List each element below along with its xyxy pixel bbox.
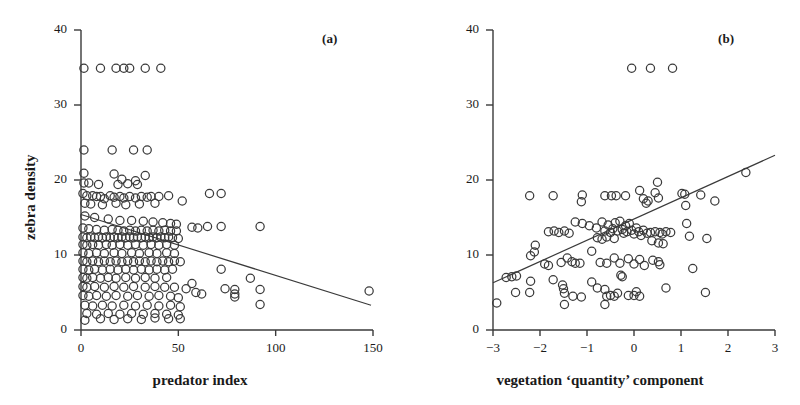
data-point: [166, 292, 174, 300]
data-point: [98, 266, 106, 274]
data-point: [178, 197, 186, 205]
data-point: [131, 274, 139, 282]
data-point: [616, 217, 624, 225]
data-point: [139, 241, 147, 249]
data-point: [151, 274, 159, 282]
data-point: [176, 303, 184, 311]
x-axis-title-a: predator index: [0, 372, 400, 389]
data-point: [126, 192, 134, 200]
data-point: [549, 192, 557, 200]
data-point: [163, 249, 171, 257]
data-point: [124, 241, 132, 249]
y-tick-label: 10: [31, 246, 67, 262]
y-tick-label: 20: [31, 171, 67, 187]
data-point: [89, 302, 97, 310]
data-point: [662, 284, 670, 292]
data-point: [682, 201, 690, 209]
data-point: [176, 258, 184, 266]
data-point: [192, 288, 200, 296]
data-point: [221, 285, 229, 293]
x-tick-label: −1: [562, 340, 612, 356]
data-point: [630, 260, 638, 268]
data-point: [124, 292, 132, 300]
x-tick-label: 3: [750, 340, 800, 356]
x-tick-label: 150: [348, 340, 398, 356]
data-point: [122, 273, 130, 281]
data-point: [85, 292, 93, 300]
panel-b: (b) vegetation ‘quantity’ component −3−2…: [400, 0, 800, 405]
y-tick-label: 40: [31, 21, 67, 37]
data-point: [100, 283, 108, 291]
data-point: [81, 301, 89, 309]
y-tick-label: 10: [443, 246, 479, 262]
data-point: [141, 64, 149, 72]
data-point: [139, 217, 147, 225]
data-point: [141, 283, 149, 291]
data-points: [493, 64, 750, 308]
data-point: [110, 315, 118, 323]
data-point: [135, 200, 143, 208]
data-point: [365, 287, 373, 295]
data-point: [91, 282, 99, 290]
data-point: [110, 170, 118, 178]
y-tick-label: 20: [443, 171, 479, 187]
data-point: [133, 291, 141, 299]
data-point: [141, 273, 149, 281]
data-point: [124, 180, 132, 188]
data-point: [87, 200, 95, 208]
data-point: [96, 64, 104, 72]
data-point: [640, 261, 648, 269]
y-tick-label: 40: [443, 21, 479, 37]
data-point: [85, 179, 93, 187]
data-point: [601, 300, 609, 308]
data-point: [512, 272, 520, 280]
panel-tag-b: (b): [718, 31, 734, 47]
data-point: [217, 222, 225, 230]
data-point: [96, 274, 104, 282]
data-point: [98, 301, 106, 309]
data-point: [588, 247, 596, 255]
data-point: [110, 282, 118, 290]
data-point: [598, 235, 606, 243]
data-point: [203, 222, 211, 230]
panel-a: (a) predator index zebra density 0501001…: [0, 0, 400, 405]
data-point: [155, 241, 163, 249]
data-point: [742, 168, 750, 176]
y-tick-label: 30: [443, 96, 479, 112]
data-point: [165, 192, 173, 200]
x-tick-label: 2: [703, 340, 753, 356]
data-point: [527, 277, 535, 285]
data-point: [145, 292, 153, 300]
y-tick-label: 0: [31, 321, 67, 337]
data-point: [126, 64, 134, 72]
data-point: [151, 282, 159, 290]
data-point: [114, 266, 122, 274]
data-point: [549, 276, 557, 284]
data-point: [685, 232, 693, 240]
data-point: [145, 249, 153, 257]
data-point: [129, 282, 137, 290]
x-axis-title-b: vegetation ‘quantity’ component: [400, 372, 800, 389]
data-point: [188, 279, 196, 287]
data-point: [129, 266, 137, 274]
data-point: [131, 194, 139, 202]
data-point: [168, 265, 176, 273]
data-point: [511, 288, 519, 296]
data-point: [151, 199, 159, 207]
data-point: [701, 288, 709, 296]
data-point: [145, 266, 153, 274]
data-point: [122, 265, 130, 273]
data-point: [526, 288, 534, 296]
data-point: [569, 292, 577, 300]
data-point: [120, 283, 128, 291]
data-point: [116, 216, 124, 224]
data-point: [92, 249, 100, 257]
data-point: [120, 301, 128, 309]
data-point: [593, 234, 601, 242]
x-tick-label: 50: [153, 340, 203, 356]
data-point: [128, 216, 136, 224]
data-point: [149, 218, 157, 226]
data-point: [667, 228, 675, 236]
data-points: [79, 64, 373, 324]
data-point: [104, 215, 112, 223]
